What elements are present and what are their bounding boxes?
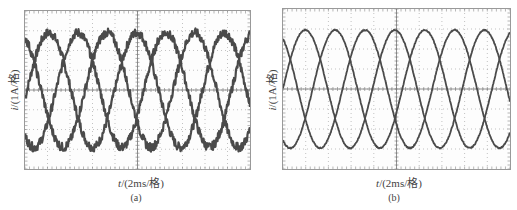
y-axis-label-a: i/(1A/格) [5,45,21,135]
caption-b: (b) [379,192,409,203]
y-axis-label-b: i/(1A/格) [263,45,279,135]
x-axis-label-a: t/(2ms/格) [96,174,186,190]
waveform-chart-b [283,9,510,169]
x-axis-label-b: t/(2ms/格) [354,174,444,190]
oscilloscope-plot-b [282,8,511,170]
oscilloscope-plot-a [24,10,251,170]
waveform-chart-a [25,11,250,169]
caption-a: (a) [121,192,151,203]
panel-b: i/(1A/格) t/(2ms/格) (b) [258,0,517,210]
panel-a: i/(1A/格) t/(2ms/格) (a) [0,0,258,210]
